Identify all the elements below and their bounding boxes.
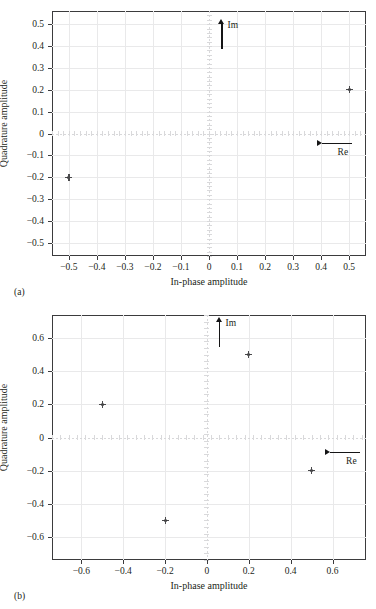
x-tick bbox=[125, 256, 126, 260]
y-tick-label: 0.4 bbox=[10, 366, 44, 376]
y-tick-label: −0.6 bbox=[10, 532, 44, 542]
x-tick bbox=[165, 560, 166, 564]
x-tick bbox=[207, 560, 208, 564]
subfigure-caption-a: (a) bbox=[14, 287, 25, 297]
x-tick-label: 0.6 bbox=[327, 566, 339, 576]
minor-tick-y bbox=[207, 256, 212, 257]
x-tick bbox=[181, 256, 182, 260]
x-tick bbox=[153, 256, 154, 260]
x-tick bbox=[333, 560, 334, 564]
y-tick-label: 0 bbox=[10, 433, 44, 443]
constellation-panel-a: ImRe −0.5−0.4−0.3−0.2−0.100.10.20.30.40.… bbox=[0, 0, 376, 305]
y-tick-label: −0.5 bbox=[10, 238, 44, 248]
x-tick-label: −0.4 bbox=[88, 262, 105, 272]
x-tick bbox=[265, 256, 266, 260]
plot-area-b: ImRe −0.6−0.4−0.200.20.40.6−0.6−0.4−0.20… bbox=[52, 315, 366, 560]
subfigure-caption-b: (b) bbox=[14, 591, 25, 601]
x-tick bbox=[349, 256, 350, 260]
y-tick-label: 0.4 bbox=[10, 41, 44, 51]
x-tick-label: 0.2 bbox=[243, 566, 255, 576]
x-tick-label: 0.3 bbox=[287, 262, 299, 272]
x-tick-label: −0.5 bbox=[60, 262, 77, 272]
x-tick bbox=[293, 256, 294, 260]
x-tick-label: −0.3 bbox=[116, 262, 133, 272]
x-tick bbox=[81, 560, 82, 564]
x-tick-label: 0.4 bbox=[285, 566, 297, 576]
x-axis-title-a: In-phase amplitude bbox=[52, 276, 366, 287]
y-tick-label: 0.5 bbox=[10, 19, 44, 29]
y-tick-label: −0.2 bbox=[10, 172, 44, 182]
plot-area-a: ImRe −0.5−0.4−0.3−0.2−0.100.10.20.30.40.… bbox=[52, 11, 366, 256]
x-tick-label: −0.6 bbox=[73, 566, 90, 576]
x-tick-label: 0.2 bbox=[259, 262, 271, 272]
x-tick bbox=[321, 256, 322, 260]
constellation-panel-b: ImRe −0.6−0.4−0.200.20.40.6−0.6−0.4−0.20… bbox=[0, 304, 376, 609]
y-tick-label: −0.3 bbox=[10, 194, 44, 204]
y-tick-label: −0.4 bbox=[10, 216, 44, 226]
x-tick bbox=[249, 560, 250, 564]
x-tick-label: 0.1 bbox=[231, 262, 243, 272]
x-tick bbox=[97, 256, 98, 260]
x-axis-title-b: In-phase amplitude bbox=[52, 580, 366, 591]
y-tick-label: 0.1 bbox=[10, 107, 44, 117]
y-tick-label: 0.2 bbox=[10, 399, 44, 409]
y-tick-label: 0.3 bbox=[10, 63, 44, 73]
y-axis-title-a: Quadrature amplitude bbox=[0, 80, 9, 167]
x-tick bbox=[237, 256, 238, 260]
y-axis-title-b: Quadrature amplitude bbox=[0, 384, 9, 471]
x-tick-label: 0 bbox=[205, 566, 210, 576]
y-tick-label: −0.1 bbox=[10, 150, 44, 160]
x-tick-label: 0.5 bbox=[343, 262, 355, 272]
figure-page: { "page": { "background": "#ffffff", "in… bbox=[0, 0, 376, 609]
y-tick-label: 0.2 bbox=[10, 85, 44, 95]
y-tick-label: −0.4 bbox=[10, 499, 44, 509]
minor-tick-y bbox=[204, 560, 209, 561]
y-tick-label: 0 bbox=[10, 129, 44, 139]
x-tick-label: −0.2 bbox=[144, 262, 161, 272]
y-tick-label: −0.2 bbox=[10, 466, 44, 476]
x-tick bbox=[291, 560, 292, 564]
x-tick bbox=[69, 256, 70, 260]
x-tick-label: 0 bbox=[207, 262, 212, 272]
x-tick bbox=[209, 256, 210, 260]
x-tick-label: −0.2 bbox=[156, 566, 173, 576]
x-tick-label: −0.1 bbox=[172, 262, 189, 272]
x-tick bbox=[123, 560, 124, 564]
x-tick-label: −0.4 bbox=[115, 566, 132, 576]
x-tick-label: 0.4 bbox=[315, 262, 327, 272]
y-tick-label: 0.6 bbox=[10, 333, 44, 343]
plot-frame-b bbox=[52, 315, 366, 560]
plot-frame-a bbox=[52, 11, 366, 256]
